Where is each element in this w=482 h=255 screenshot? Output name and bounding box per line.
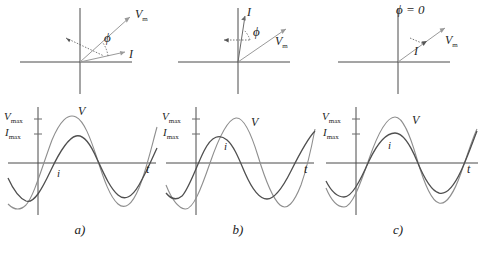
voltage-curve-label-a: V bbox=[78, 104, 87, 118]
voltage-curve-label-c: V bbox=[412, 113, 421, 127]
voltage-curve-c bbox=[326, 117, 477, 207]
current-phasor-label-c: I bbox=[413, 44, 419, 58]
panel-a: Vm I ϕ Vmax Imax V i t a) bbox=[0, 0, 160, 255]
waveform-chart-b: Vmax Imax V i t bbox=[158, 93, 322, 218]
voltage-curve-label-b: V bbox=[251, 115, 260, 129]
current-curve-c bbox=[326, 131, 477, 197]
voltage-phasor-arrowhead-a bbox=[125, 17, 131, 23]
current-phasor-arrow-b bbox=[238, 16, 245, 62]
voltage-phasor-label-b: Vm bbox=[275, 34, 288, 50]
phase-angle-arrowhead-a bbox=[66, 38, 71, 42]
voltage-phasor-label-a: Vm bbox=[135, 7, 148, 23]
phasor-diagram-b: I Vm ϕ bbox=[158, 0, 318, 95]
phase-angle-arrowhead-b bbox=[224, 38, 229, 42]
panel-caption-a: a) bbox=[0, 222, 160, 238]
phase-angle-ref-a bbox=[66, 38, 104, 56]
phasor-diagram-c: I Vm ϕ = 0 bbox=[318, 0, 478, 95]
current-curve-label-b: i bbox=[224, 140, 227, 152]
vmax-label-b: Vmax bbox=[162, 110, 181, 125]
phase-angle-label-a: ϕ bbox=[104, 30, 111, 45]
panel-caption-c: c) bbox=[318, 222, 478, 238]
current-phasor-arrow-a bbox=[80, 52, 125, 62]
current-phasor-arrowhead-c bbox=[422, 41, 427, 46]
current-phasor-arrowhead-b bbox=[241, 16, 246, 21]
current-curve-b bbox=[166, 131, 315, 199]
vmax-label-a: Vmax bbox=[4, 110, 23, 125]
voltage-phasor-label-c: Vm bbox=[445, 33, 458, 49]
panel-caption-b: b) bbox=[158, 222, 318, 238]
current-curve-label-c: i bbox=[388, 139, 391, 151]
imax-label-a: Imax bbox=[4, 126, 21, 141]
current-phasor-label-a: I bbox=[128, 47, 134, 61]
current-phasor-label-b: I bbox=[246, 5, 252, 19]
phase-angle-label-b: ϕ bbox=[253, 24, 260, 39]
imax-label-c: Imax bbox=[322, 126, 339, 141]
waveform-chart-a: Vmax Imax V i t bbox=[0, 93, 164, 218]
panel-c: I Vm ϕ = 0 Vmax Imax V i t c) bbox=[318, 0, 478, 255]
imax-label-b: Imax bbox=[162, 126, 179, 141]
time-axis-label-c: t bbox=[467, 162, 471, 176]
current-curve-a bbox=[8, 136, 157, 202]
phase-angle-label-c: ϕ = 0 bbox=[396, 2, 425, 17]
panel-b: I Vm ϕ Vmax Imax V i t b) bbox=[158, 0, 318, 255]
current-curve-label-a: i bbox=[57, 167, 60, 179]
voltage-phasor-arrow-c bbox=[398, 28, 445, 62]
phasor-diagram-a: Vm I ϕ bbox=[0, 0, 160, 95]
waveform-chart-c: Vmax Imax V i t bbox=[318, 93, 482, 218]
phasor-waveform-figure: Vm I ϕ Vmax Imax V i t a) bbox=[0, 0, 482, 255]
phase-angle-arc-b bbox=[244, 30, 250, 40]
vmax-label-c: Vmax bbox=[322, 110, 341, 125]
